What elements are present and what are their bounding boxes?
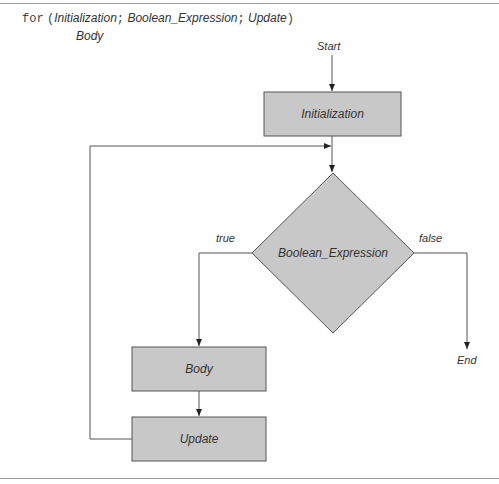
false-label: false	[419, 232, 442, 244]
initialization-label: Initialization	[264, 107, 401, 121]
start-label: Start	[317, 40, 340, 52]
true-label: true	[216, 232, 235, 244]
update-label: Update	[132, 432, 266, 446]
condition-label: Boolean_Expression	[252, 246, 414, 260]
end-label: End	[457, 354, 477, 366]
true-branch-arrow	[199, 253, 252, 346]
false-branch-arrow	[414, 253, 467, 349]
body-label: Body	[132, 362, 266, 376]
